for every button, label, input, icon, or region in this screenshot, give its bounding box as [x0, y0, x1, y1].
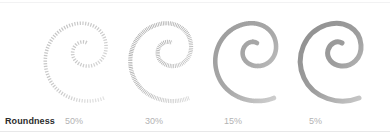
row-title-roundness: Roundness: [5, 116, 55, 126]
spiral-sample-1[interactable]: [117, 8, 197, 112]
panel-bottom-divider: [0, 131, 390, 132]
roundness-comparison-panel: Roundness 50% 30% 15% 5%: [0, 0, 390, 138]
spiral-sample-0[interactable]: [32, 8, 112, 112]
panel-top-divider: [0, 2, 390, 3]
spiral-sample-2[interactable]: [202, 8, 282, 112]
roundness-value-0: 50%: [65, 116, 83, 126]
spiral-sample-3[interactable]: [287, 8, 367, 112]
spiral-stroke-icon: [32, 8, 112, 112]
spiral-sample-row: [0, 8, 390, 112]
spiral-stroke-icon: [117, 8, 197, 112]
roundness-value-1: 30%: [145, 116, 163, 126]
roundness-value-3: 5%: [309, 116, 322, 126]
roundness-value-2: 15%: [224, 116, 242, 126]
spiral-stroke-icon: [287, 8, 367, 112]
roundness-label-row: Roundness 50% 30% 15% 5%: [0, 114, 390, 131]
spiral-stroke-icon: [202, 8, 282, 112]
